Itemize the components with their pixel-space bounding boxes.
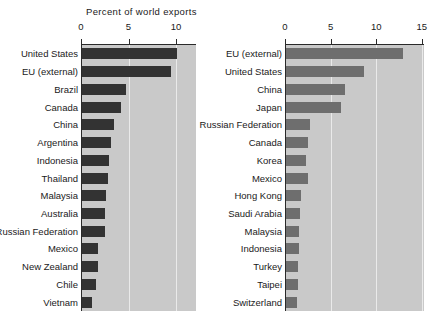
bar <box>286 66 364 77</box>
bar <box>82 84 126 95</box>
axis-tick-label: 0 <box>78 21 83 32</box>
axis-tick-label: 5 <box>328 21 333 32</box>
category-label: Japan <box>256 102 282 113</box>
category-label: United States <box>21 48 78 59</box>
axis-tick-mark <box>422 39 423 44</box>
bar <box>286 226 299 237</box>
gridline <box>422 45 423 311</box>
bar <box>286 48 403 59</box>
bar <box>286 243 299 254</box>
axis-tick-label: 5 <box>126 21 131 32</box>
bar <box>286 84 345 95</box>
category-label: Hong Kong <box>234 190 282 201</box>
category-label: Vietnam <box>43 297 78 308</box>
category-label: Indonesia <box>241 243 282 254</box>
category-label: Taipei <box>257 279 282 290</box>
exports-chart-title: Percent of world exports <box>86 6 197 17</box>
category-label: Canada <box>249 137 282 148</box>
axis-tick-mark <box>331 39 332 44</box>
category-label: Korea <box>257 155 282 166</box>
bar <box>82 102 121 113</box>
axis-tick-label: 0 <box>282 21 287 32</box>
bar <box>82 173 108 184</box>
bar <box>82 208 105 219</box>
category-label: Thailand <box>42 173 78 184</box>
category-label: Saudi Arabia <box>228 208 282 219</box>
imports-panel: Percent of world imports 051015 EU (exte… <box>218 0 436 335</box>
category-label: China <box>53 119 78 130</box>
bar <box>82 155 109 166</box>
category-label: Turkey <box>253 261 282 272</box>
category-label: Indonesia <box>37 155 78 166</box>
category-label: China <box>257 84 282 95</box>
category-label: Russian Federation <box>200 119 282 130</box>
category-label: Mexico <box>252 173 282 184</box>
category-label: Brazil <box>54 84 78 95</box>
bar <box>82 190 106 201</box>
bar <box>82 66 171 77</box>
axis-tick-mark <box>129 39 130 44</box>
category-label: Russian Federation <box>0 226 78 237</box>
axis-tick-label: 10 <box>171 21 182 32</box>
category-label: United States <box>225 66 282 77</box>
axis-tick-label: 15 <box>417 21 428 32</box>
exports-plot-area <box>81 45 196 311</box>
bar <box>82 243 98 254</box>
axis-tick-mark <box>81 39 82 44</box>
category-label: New Zealand <box>22 261 78 272</box>
bar <box>286 137 308 148</box>
bar <box>82 261 98 272</box>
category-label: Malaysia <box>41 190 79 201</box>
axis-tick-mark <box>176 39 177 44</box>
bar <box>286 155 306 166</box>
category-label: EU (external) <box>226 48 282 59</box>
category-label: Switzerland <box>233 297 282 308</box>
bar <box>286 261 298 272</box>
category-label: Argentina <box>37 137 78 148</box>
bar <box>82 48 177 59</box>
bar <box>286 119 310 130</box>
dual-bar-chart-figure: Percent of world exports 0510 United Sta… <box>0 0 436 335</box>
bar <box>82 226 105 237</box>
category-label: Mexico <box>48 243 78 254</box>
gridline <box>176 45 177 311</box>
exports-panel: Percent of world exports 0510 United Sta… <box>0 0 218 335</box>
category-label: EU (external) <box>22 66 78 77</box>
category-label: Chile <box>56 279 78 290</box>
category-label: Canada <box>45 102 78 113</box>
bar <box>82 137 111 148</box>
bar <box>286 173 308 184</box>
axis-tick-mark <box>376 39 377 44</box>
category-label: Malaysia <box>245 226 283 237</box>
axis-tick-mark <box>285 39 286 44</box>
bar <box>82 297 92 308</box>
gridline <box>376 45 377 311</box>
imports-plot-area <box>285 45 424 311</box>
bar <box>286 279 298 290</box>
bar <box>286 297 297 308</box>
category-label: Australia <box>41 208 78 219</box>
bar <box>286 190 301 201</box>
bar <box>286 208 300 219</box>
gridline <box>129 45 130 311</box>
axis-tick-label: 10 <box>371 21 382 32</box>
bar <box>286 102 341 113</box>
bar <box>82 119 114 130</box>
bar <box>82 279 96 290</box>
